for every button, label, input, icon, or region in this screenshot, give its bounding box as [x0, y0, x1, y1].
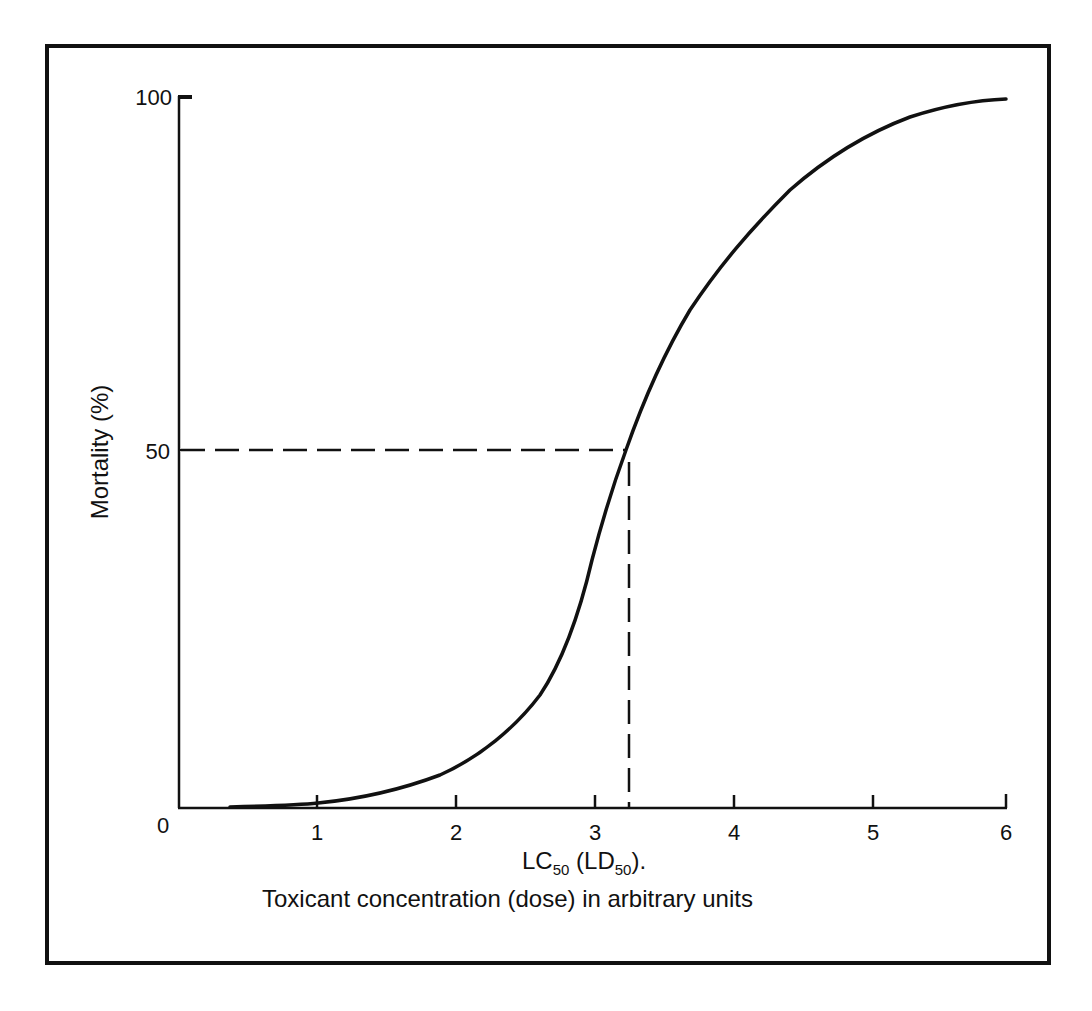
dose-response-chart: 100 50 0 1 2 3 4 5 6 Mortality (%) LC50 … [0, 0, 1092, 1011]
x-ticks [317, 794, 1006, 808]
y-tick-label-100: 100 [135, 85, 172, 110]
x-tick-label-3: 3 [589, 820, 601, 845]
x-tick-label-1: 1 [311, 820, 323, 845]
x-tick-label-4: 4 [728, 820, 740, 845]
x-tick-label-5: 5 [867, 820, 879, 845]
x-tick-label-2: 2 [450, 820, 462, 845]
figure-frame [47, 46, 1049, 963]
dose-response-curve [230, 99, 1006, 807]
lc50-annotation: LC50 (LD50). [522, 847, 646, 878]
x-axis-title: Toxicant concentration (dose) in arbitra… [262, 885, 753, 912]
y-tick-label-50: 50 [146, 439, 170, 464]
origin-label: 0 [157, 813, 169, 838]
x-tick-label-6: 6 [1000, 820, 1012, 845]
y-axis-title: Mortality (%) [86, 385, 113, 520]
